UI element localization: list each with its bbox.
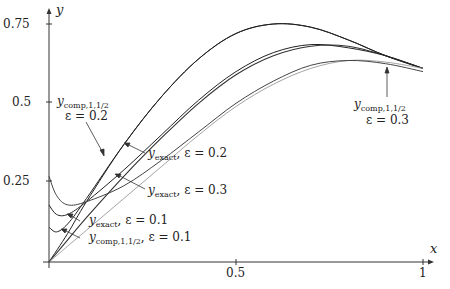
- y-tick-label: 0.75: [3, 17, 30, 31]
- plot-area: [0, 0, 450, 289]
- label-exact-0.1: yexact, ε = 0.1: [89, 213, 168, 229]
- x-axis-arrow-icon: [428, 260, 434, 265]
- x-axis-label: x: [430, 241, 437, 256]
- curve-1: [49, 24, 423, 232]
- label-comp-0.3: ycomp,1,1/2: [354, 97, 406, 113]
- label-comp-0.3-eps: ε = 0.3: [366, 113, 409, 127]
- y-axis-label: y: [56, 2, 63, 17]
- label-comp-0.2: ycomp,1,1/2: [57, 94, 109, 110]
- curve-3: [49, 44, 423, 215]
- curve-5: [49, 60, 423, 205]
- x-tick-label: 0.5: [226, 266, 245, 280]
- y-axis-arrow-icon: [47, 8, 52, 14]
- label-exact-0.3: yexact, ε = 0.3: [148, 183, 227, 199]
- label-comp-0.2-eps: ε = 0.2: [65, 109, 108, 123]
- y-tick-label: 0.5: [12, 95, 31, 109]
- chart-figure: y x 0.5 1 0.25 0.5 0.75 ycomp,1,1/2 ε = …: [0, 0, 450, 289]
- label-exact-0.2: yexact, ε = 0.2: [148, 146, 227, 162]
- y-tick-label: 0.25: [3, 174, 30, 188]
- x-tick-label: 1: [419, 266, 427, 280]
- label-comp-0.1: ycomp,1,1/2, ε = 0.1: [89, 230, 191, 246]
